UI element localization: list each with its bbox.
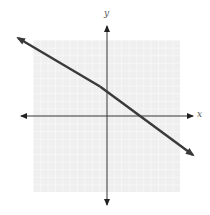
coordinate-plane	[0, 0, 210, 215]
x-axis-label: x	[197, 109, 202, 119]
y-axis-label: y	[104, 8, 109, 18]
